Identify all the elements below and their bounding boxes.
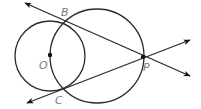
point-P (141, 55, 145, 59)
geometry-diagram: B O C P (0, 0, 201, 109)
point-O (48, 53, 52, 57)
label-C: C (55, 94, 63, 107)
line-PC (27, 40, 190, 103)
label-B: B (61, 6, 69, 19)
line-PB (25, 3, 190, 76)
label-P: P (143, 61, 150, 74)
label-O: O (39, 59, 48, 72)
